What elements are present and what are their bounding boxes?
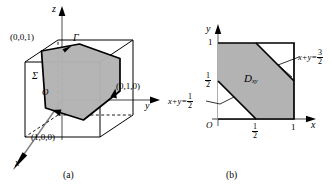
y-axis-arrowhead-b [215,24,221,34]
axis-label-y-b: y [206,24,210,34]
axis-label-x-b: x [311,120,315,130]
axis-label-z: z [52,4,56,14]
label-line-lower-fraction: 12 [187,93,193,110]
label-line-upper-fraction: 32 [317,49,323,66]
x-tick-label-half: 1 2 [252,123,258,140]
axis-label-y-a: y [145,101,149,111]
z-axis-arrowhead [59,6,66,16]
x-tick-label-1: 1 [291,123,296,132]
vertex-label-y: (0,1,0) [116,82,140,91]
panel-b: y x O 1 1 2 1 2 1 Dxy x+y=32 x+y=12 (b) [166,0,332,191]
axis-label-x-a: x [15,158,19,168]
region-label-dxy: Dxy [244,73,258,85]
x-tick-half-denominator: 2 [252,132,258,140]
origin-label-a: O [42,88,49,97]
surface-label-sigma: Σ [32,71,38,81]
vertex-label-z: (0,0,1) [10,33,34,42]
caption-b: (b) [226,170,237,180]
label-line-lower: x+y=12 [168,93,193,110]
hexagonal-cross-section [42,44,121,120]
y-tick-half-denominator: 2 [205,81,211,89]
origin-label-b: O [206,121,213,130]
label-line-upper: x+y=32 [298,49,323,66]
label-line-upper-denominator: 2 [317,58,323,66]
y-tick-label-half: 1 2 [205,72,211,89]
label-line-upper-lhs: x+y= [298,52,317,62]
vertex-label-x: (1,0,0) [31,133,55,142]
y-axis-arrowhead [150,97,160,104]
panel-a-graphic [0,0,166,191]
panel-a: (0,0,1) (0,1,0) (1,0,0) Γ Σ O z y x (a) [0,0,166,191]
caption-a: (a) [63,170,74,180]
label-line-lower-lhs: x+y= [168,96,187,106]
figure-container: (0,0,1) (0,1,0) (1,0,0) Γ Σ O z y x (a) [0,0,332,191]
x-tick-half-fraction: 1 2 [252,123,258,140]
curve-label-gamma: Γ [73,33,79,43]
region-label-subscript: xy [252,77,258,84]
y-tick-half-fraction: 1 2 [205,72,211,89]
label-line-lower-denominator: 2 [187,102,193,110]
y-tick-label-1: 1 [208,38,213,47]
region-label-d: D [244,72,252,84]
